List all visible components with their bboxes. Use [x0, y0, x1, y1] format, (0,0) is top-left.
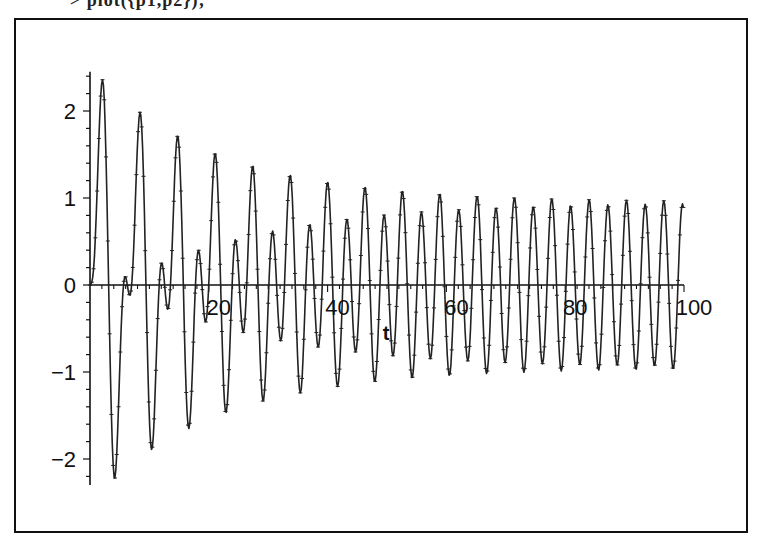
line-chart: −2−101220406080100t	[0, 0, 764, 551]
y-tick-label: −2	[51, 447, 76, 472]
x-tick-label: 40	[325, 295, 349, 320]
x-tick-label: 60	[444, 295, 468, 320]
data-series-line	[90, 80, 683, 478]
y-tick-label: 1	[64, 186, 76, 211]
x-tick-label: 20	[207, 295, 231, 320]
y-tick-label: 2	[64, 99, 76, 124]
x-tick-label: 80	[563, 295, 587, 320]
x-tick-label: 100	[676, 295, 713, 320]
y-tick-label: −1	[51, 360, 76, 385]
x-axis-label: t	[383, 322, 390, 344]
y-tick-label: 0	[64, 273, 76, 298]
